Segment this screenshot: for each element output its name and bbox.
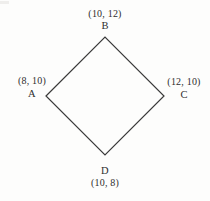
vertex-a-letter-label: A (4, 88, 60, 99)
vertex-d-letter-label: D (0, 165, 210, 176)
vertex-c-letter-label: C (158, 89, 210, 100)
vertex-a-coordinate-label: (8, 10) (4, 75, 60, 86)
vertex-c-coordinate-label: (12, 10) (158, 76, 210, 87)
vertex-b-coordinate-label: (10, 12) (0, 8, 210, 19)
vertex-d-coordinate-label: (10, 8) (0, 177, 210, 188)
rhombus-outline (46, 37, 164, 155)
vertex-b-letter-label: B (0, 20, 210, 31)
figure-canvas: (10, 12) B (8, 10) A (12, 10) C D (10, 8… (0, 0, 210, 201)
